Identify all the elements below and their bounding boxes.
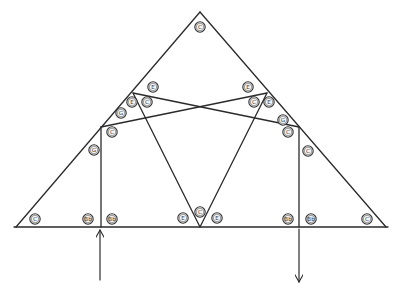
member-label-tag: C [107, 127, 117, 137]
member-label-tag: E [178, 213, 188, 223]
member-label-text: C [145, 99, 149, 105]
member-labels: CEEECCEGGCCGCCBbBbECEBbBbC [30, 22, 372, 224]
member-label-tag: C [283, 127, 293, 137]
member-label-tag: C [142, 97, 152, 107]
member-label-text: Bb [84, 216, 92, 222]
member-label-text: C [198, 209, 202, 215]
member-label-text: E [130, 99, 134, 105]
member-label-text: C [252, 99, 256, 105]
member-label-tag: C [249, 97, 259, 107]
member-label-text: Bb [284, 216, 292, 222]
right-rafter-member [200, 12, 386, 227]
member-label-text: G [281, 117, 285, 123]
member-label-text: Bb [307, 216, 315, 222]
member-label-tag: Bb [83, 214, 93, 224]
member-label-text: C [306, 148, 310, 154]
member-label-tag: E [212, 213, 222, 223]
member-label-tag: Bb [283, 214, 293, 224]
force-arrows [100, 229, 299, 282]
member-label-tag: G [116, 108, 126, 118]
member-label-text: E [267, 99, 271, 105]
member-label-tag: G [89, 145, 99, 155]
member-label-text: C [286, 129, 290, 135]
member-label-text: C [33, 216, 37, 222]
member-label-tag: Bb [306, 214, 316, 224]
member-label-text: Bb [108, 216, 116, 222]
member-label-tag: E [243, 82, 253, 92]
member-label-text: E [215, 215, 219, 221]
member-label-text: C [110, 129, 114, 135]
member-label-tag: Bb [107, 214, 117, 224]
member-label-tag: C [30, 214, 40, 224]
member-label-tag: E [148, 82, 158, 92]
member-label-tag: C [195, 207, 205, 217]
member-label-tag: G [278, 115, 288, 125]
member-label-text: E [246, 84, 250, 90]
member-label-text: C [365, 216, 369, 222]
left-rafter-member [16, 12, 200, 227]
member-label-tag: C [303, 146, 313, 156]
truss-members [14, 12, 388, 227]
member-label-tag: E [127, 97, 137, 107]
member-label-tag: E [264, 97, 274, 107]
member-label-text: E [151, 84, 155, 90]
member-label-text: C [198, 24, 202, 30]
member-label-tag: C [195, 22, 205, 32]
truss-diagram: CEEECCEGGCCGCCBbBbECEBbBbC [0, 0, 400, 299]
member-label-text: E [181, 215, 185, 221]
member-label-text: G [119, 110, 123, 116]
truss-diagram-canvas: CEEECCEGGCCGCCBbBbECEBbBbC [0, 0, 400, 299]
member-label-tag: C [362, 214, 372, 224]
member-label-text: G [92, 147, 96, 153]
